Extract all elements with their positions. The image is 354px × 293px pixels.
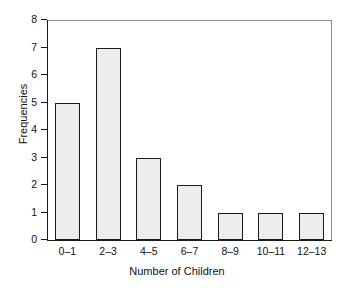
bar <box>136 158 161 241</box>
bar <box>218 213 243 241</box>
x-axis-title: Number of Children <box>0 265 354 277</box>
y-axis-tick-label: 0 <box>21 233 37 245</box>
y-axis-tick-label: 1 <box>21 206 37 218</box>
x-axis-tick-label: 6–7 <box>181 245 199 257</box>
y-axis-title: Frequencies <box>17 54 29 174</box>
bar-chart-figure: 012345678 0–12–34–56–78–910–1112–13 Numb… <box>0 0 354 293</box>
bar <box>96 48 121 241</box>
x-axis-tick-label: 2–3 <box>99 245 117 257</box>
y-axis-tick-label: 8 <box>21 13 37 25</box>
x-axis-tick-label: 12–13 <box>297 245 326 257</box>
x-axis-tick-label: 4–5 <box>140 245 158 257</box>
bar <box>55 103 80 241</box>
x-axis-line <box>47 240 332 241</box>
plot-area <box>47 20 332 240</box>
x-axis-tick-label: 8–9 <box>221 245 239 257</box>
bar <box>177 185 202 240</box>
x-axis-tick-label: 10–11 <box>257 245 285 257</box>
bar <box>258 213 283 241</box>
y-axis-tick-label: 7 <box>21 41 37 53</box>
bar <box>299 213 324 241</box>
x-axis-tick-label: 0–1 <box>59 245 77 257</box>
y-axis-tick-label: 2 <box>21 178 37 190</box>
